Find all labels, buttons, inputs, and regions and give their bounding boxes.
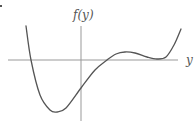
plot-area xyxy=(0,0,196,122)
function-sketch-figure: f(y) y xyxy=(0,0,196,122)
horizontal-axis-label: y xyxy=(186,54,193,66)
corner-mark xyxy=(0,5,2,7)
vertical-axis-label: f(y) xyxy=(73,9,94,21)
function-curve xyxy=(26,26,181,112)
